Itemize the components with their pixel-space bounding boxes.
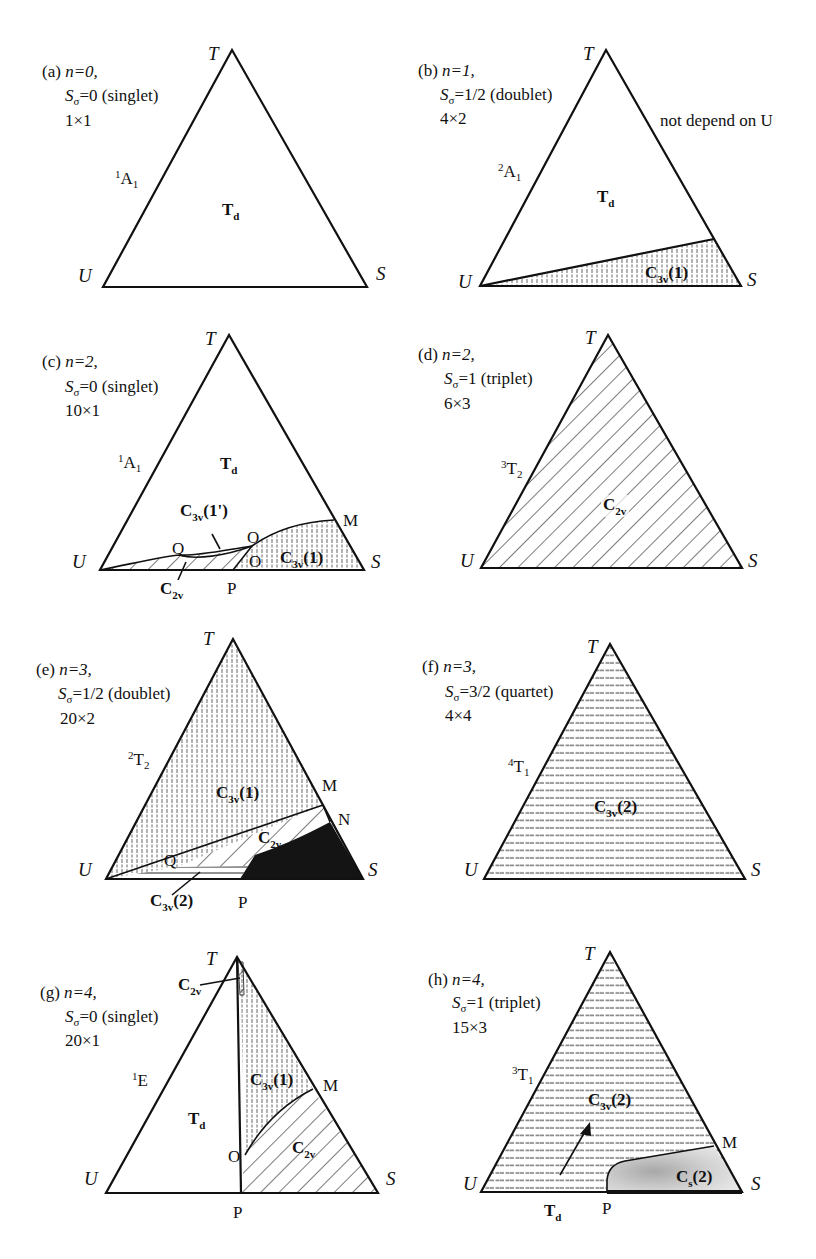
- vertex-label-top: T: [208, 43, 220, 64]
- vertex-label-left: U: [458, 271, 473, 292]
- vertex-label-right: S: [368, 859, 378, 880]
- point-label-m: M: [722, 1133, 737, 1152]
- vertex-label-right: S: [751, 859, 761, 880]
- point-label-p: P: [233, 1203, 242, 1222]
- panel-caption-dimension: 4×2: [440, 109, 467, 128]
- region-label-c2v-small: C2v: [178, 975, 202, 997]
- panel-caption-line1: (a) n=0,: [42, 62, 98, 81]
- panel-caption-spin: Sσ=3/2 (quartet): [445, 682, 554, 703]
- vertex-label-top: T: [587, 636, 599, 657]
- ground-state-label: 3T1: [512, 1064, 533, 1086]
- panel-caption-line1: (f) n=3,: [422, 657, 476, 676]
- point-label-q: Q: [172, 539, 184, 558]
- panel-caption-line1: (h) n=4,: [428, 970, 485, 989]
- vertex-label-left: U: [460, 550, 475, 571]
- vertex-label-left: U: [84, 1168, 99, 1189]
- point-label-q: Q: [164, 851, 176, 870]
- panel-d: T U S (d) n=2, Sσ=1 (triplet) 6×3 3T2 C2…: [418, 327, 758, 571]
- ground-state-label: 3T2: [501, 458, 522, 480]
- panel-caption-dimension: 20×2: [60, 709, 95, 728]
- panel-caption-spin: Sσ=0 (singlet): [65, 86, 158, 107]
- point-label-o: O: [247, 528, 259, 547]
- panel-c: T U S (c) n=2, Sσ=0 (singlet) 10×1 1A1 T…: [42, 328, 381, 601]
- vertex-label-left: U: [464, 859, 479, 880]
- panel-caption-line1: (g) n=4,: [40, 983, 97, 1002]
- region-label-td: Td: [544, 1201, 561, 1223]
- panel-caption-dimension: 4×4: [445, 706, 472, 725]
- region-label-td: Td: [222, 200, 239, 222]
- phase-diagram-figure: T U S (a) n=0, Sσ=0 (singlet) 1×1 1A1 Td…: [0, 0, 816, 1259]
- panel-b: T U S (b) n=1, Sσ=1/2 (doublet) 4×2 not …: [418, 43, 773, 292]
- panel-h: T U S (h) n=4, Sσ=1 (triplet) 15×3 3T1 C…: [428, 943, 761, 1223]
- panel-caption-spin: Sσ=1 (triplet): [444, 369, 533, 390]
- region-label-c3v2: C3v(2): [150, 891, 193, 913]
- ground-state-label: 1E: [132, 1070, 148, 1090]
- panel-caption-spin: Sσ=1 (triplet): [452, 993, 541, 1014]
- point-label-p: P: [227, 579, 236, 598]
- panel-caption-dimension: 1×1: [65, 111, 92, 130]
- vertex-label-right: S: [376, 263, 386, 284]
- panel-caption-spin: Sσ=1/2 (doublet): [440, 85, 552, 106]
- region-label-td: Td: [188, 1109, 205, 1131]
- ground-state-label: 1A1: [115, 168, 138, 190]
- panel-caption-line1: (d) n=2,: [418, 345, 475, 364]
- vertex-label-top: T: [585, 327, 597, 348]
- vertex-label-left: U: [72, 551, 87, 572]
- vertex-label-top: T: [203, 628, 215, 649]
- leader-line: [212, 534, 220, 549]
- point-label-p: P: [602, 1199, 611, 1218]
- vertex-label-top: T: [584, 943, 596, 964]
- region-label-c2v: C2v: [160, 579, 184, 601]
- point-label-m: M: [343, 511, 358, 530]
- region-label-td: Td: [597, 187, 614, 209]
- ground-state-label: 2A1: [498, 161, 521, 183]
- vertex-label-right: S: [747, 269, 757, 290]
- region-label-cs2: Cs(2): [676, 1167, 712, 1189]
- region-label-td: Td: [220, 454, 237, 476]
- panel-caption-dimension: 6×3: [444, 394, 471, 413]
- vertex-label-top: T: [205, 328, 217, 349]
- panel-caption-line1: (e) n=3,: [36, 660, 92, 679]
- point-label-m: M: [323, 1076, 338, 1095]
- panel-caption-line1: (b) n=1,: [418, 61, 475, 80]
- vertex-label-top: T: [583, 43, 595, 64]
- vertex-label-right: S: [748, 550, 758, 571]
- vertex-label-right: S: [386, 1168, 396, 1189]
- panel-f: T U S (f) n=3, Sσ=3/2 (quartet) 4×4 4T1 …: [422, 636, 761, 880]
- panel-caption-dimension: 20×1: [65, 1031, 100, 1050]
- vertex-label-left: U: [78, 859, 93, 880]
- panel-caption-spin: Sσ=0 (singlet): [65, 1007, 158, 1028]
- panel-caption-spin: Sσ=1/2 (doublet): [58, 684, 170, 705]
- region-label-c3v1prime: C3v(1'): [180, 501, 228, 523]
- vertex-label-left: U: [78, 265, 93, 286]
- point-label-n: N: [338, 810, 350, 829]
- point-label-p: P: [238, 893, 247, 912]
- annotation-note: not depend on U: [660, 111, 773, 130]
- panel-caption-dimension: 10×1: [65, 401, 100, 420]
- ground-state-label: 2T2: [128, 749, 149, 771]
- vertex-label-right: S: [751, 1173, 761, 1194]
- panel-a: T U S (a) n=0, Sσ=0 (singlet) 1×1 1A1 Td: [42, 43, 386, 287]
- panel-e: T U S (e) n=3, Sσ=1/2 (doublet) 20×2 2T2…: [36, 628, 378, 913]
- leader-line: [200, 978, 240, 985]
- ground-state-label: 1A1: [118, 452, 141, 474]
- panel-caption-spin: Sσ=0 (singlet): [65, 377, 158, 398]
- ground-state-label: 4T1: [508, 756, 529, 778]
- point-label-m: M: [322, 776, 337, 795]
- panel-g: T U S (g) n=4, Sσ=0 (singlet) 20×1 1E Td…: [40, 948, 396, 1222]
- vertex-label-right: S: [371, 551, 381, 572]
- panel-caption-line1: (c) n=2,: [42, 352, 98, 371]
- vertex-label-top: T: [206, 948, 218, 969]
- vertex-label-left: U: [463, 1173, 478, 1194]
- panel-caption-dimension: 15×3: [452, 1018, 487, 1037]
- point-label-o-lower: O: [249, 552, 261, 571]
- point-label-o: O: [228, 1147, 240, 1166]
